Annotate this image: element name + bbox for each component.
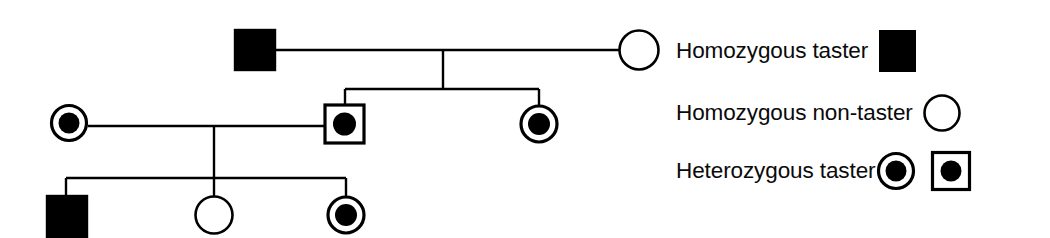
individual-II-1-carrier-dot [59,113,80,134]
generation-3-group [47,178,364,238]
individual-I-2-open-circle [620,31,659,70]
legend-label-homozygous-non-taster: Homozygous non-taster [676,90,913,136]
legend-label-heterozygous-taster: Heterozygous taster [676,148,875,194]
legend: Homozygous taster Homozygous non-taster … [676,0,1050,238]
legend-row-homozygous-non-taster: Homozygous non-taster [676,90,961,136]
individual-III-2-open-circle [196,197,233,234]
legend-row-homozygous-taster: Homozygous taster [676,28,916,74]
open-circle-icon [913,90,961,136]
generation-1-group [235,30,659,106]
circle-with-dot-icon [875,148,917,194]
pedigree-figure: Homozygous taster Homozygous non-taster … [0,0,1050,238]
legend-symbols-heterozygous-taster [875,148,972,194]
individual-I-1-filled-square [235,30,275,70]
filled-square-icon [868,28,916,74]
legend-symbols-homozygous-taster [868,28,916,74]
individual-III-3-carrier-dot [335,204,357,226]
individual-III-1-filled-square [47,196,87,238]
legend-row-heterozygous-taster: Heterozygous taster [676,148,972,194]
individual-II-3-carrier-dot [528,113,550,135]
individual-II-2-carrier-dot [333,113,356,136]
generation-2-group [52,105,558,178]
legend-label-homozygous-taster: Homozygous taster [676,28,868,74]
square-with-dot-icon [930,148,972,194]
legend-symbols-homozygous-non-taster [913,90,961,136]
